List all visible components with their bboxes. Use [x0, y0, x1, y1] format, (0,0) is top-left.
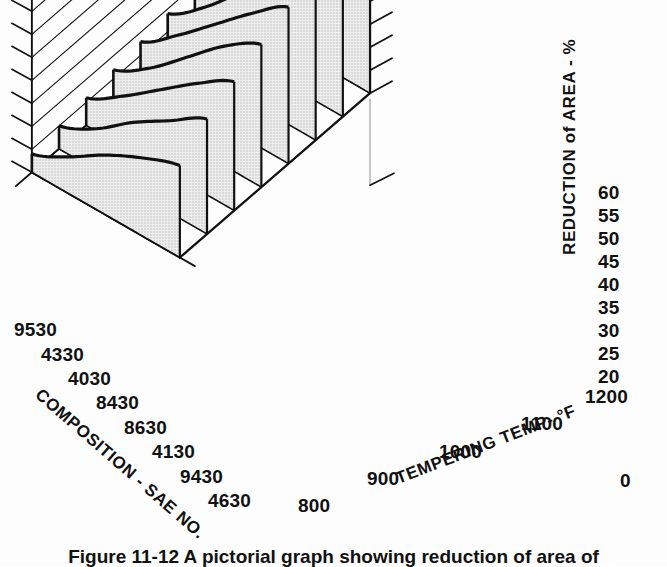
left-axis-tick — [12, 92, 32, 103]
y-tick-label-8630: 8630 — [124, 417, 167, 439]
left-axis-tick — [12, 138, 32, 149]
y-tick-label-9530: 9530 — [14, 319, 57, 341]
y-tick-label-8430: 8430 — [96, 392, 139, 414]
composition-ribbon-4630 — [32, 154, 180, 258]
left-axis-tick — [12, 0, 32, 11]
z-tick-label-30: 30 — [598, 320, 620, 342]
right-axis-tick — [370, 12, 392, 24]
left-axis-tick — [12, 23, 32, 34]
ribbon-face — [32, 154, 180, 258]
x-axis-major-tick — [180, 258, 195, 267]
z-tick-label-40: 40 — [598, 274, 620, 296]
z-tick-label-35: 35 — [598, 297, 620, 319]
zero-tick — [370, 173, 394, 185]
y-tick-label-4630: 4630 — [208, 490, 251, 512]
z-tick-label-55: 55 — [598, 205, 620, 227]
z-tick-label-25: 25 — [598, 343, 620, 365]
right-axis-tick — [370, 0, 392, 1]
y-tick-label-4030: 4030 — [68, 368, 111, 390]
left-axis-tick — [12, 46, 32, 57]
right-axis-tick — [370, 81, 392, 93]
y-tick-label-4330: 4330 — [41, 344, 84, 366]
left-axis-tick — [12, 115, 32, 126]
right-axis-tick — [370, 35, 392, 47]
left-axis-tick — [12, 69, 32, 80]
y-tick-label-9430: 9430 — [180, 466, 223, 488]
z-tick-label-50: 50 — [598, 228, 620, 250]
z-tick-label-60: 60 — [598, 182, 620, 204]
z-axis-zero-label: 0 — [620, 470, 631, 492]
figure-caption: Figure 11-12 A pictorial graph showing r… — [0, 545, 667, 567]
z-tick-label-20: 20 — [598, 366, 620, 388]
x-tick-label-1200: 1200 — [585, 386, 628, 408]
y-axis-tick — [16, 172, 32, 186]
y-tick-label-4130: 4130 — [152, 441, 195, 463]
z-axis-title: REDUCTION of AREA - % — [560, 39, 580, 255]
x-tick-label-800: 800 — [298, 495, 330, 517]
z-tick-label-45: 45 — [598, 251, 620, 273]
right-axis-tick — [370, 58, 392, 70]
left-axis-tick — [12, 161, 32, 172]
